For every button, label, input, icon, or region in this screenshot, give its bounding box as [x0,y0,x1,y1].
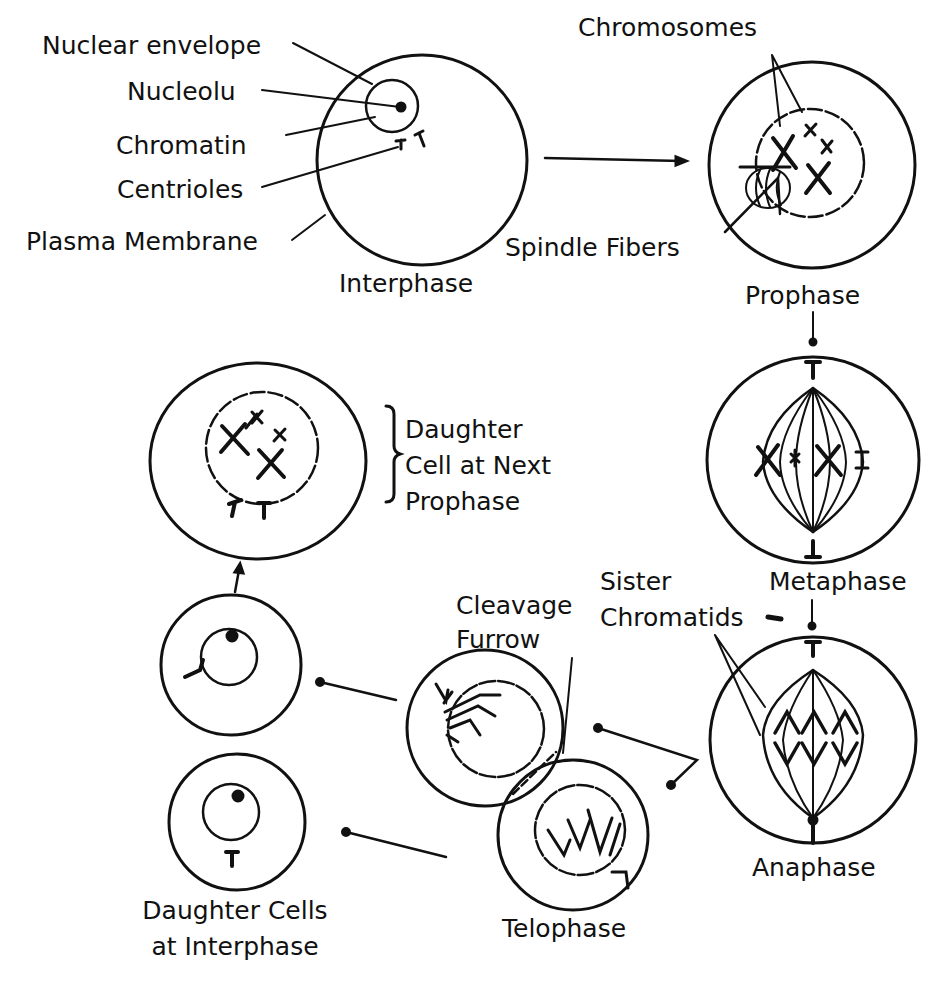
daughter-prophase-cell [150,363,366,559]
interphase-cell [262,43,527,265]
stray-mark [768,617,781,619]
label-sister-chromatids-line1: Sister [600,566,671,597]
label-sister-chromatids-line2: Chromatids [600,602,744,633]
arrow-metaphase-to-anaphase [809,600,815,629]
label-chromosomes: Chromosomes [578,12,757,43]
label-daughter-interphase-line1: Daughter Cells [110,895,360,926]
label-nucleolus: Nucleolu [127,76,236,107]
cleavage-furrow-leader [563,658,572,753]
label-metaphase: Metaphase [769,566,907,597]
label-centrioles: Centrioles [117,174,243,205]
label-telophase: Telophase [502,913,626,944]
label-daughter-next-line2: Cell at Next [405,450,551,481]
label-cleavage-furrow-line1: Cleavage [456,590,572,621]
arrow-interphase-to-prophase [545,157,686,165]
daughter-interphase-cell-top [161,595,301,735]
label-plasma-membrane: Plasma Membrane [26,226,258,257]
bracket-brace [386,406,400,502]
label-daughter-next-line3: Prophase [405,486,520,517]
arrow-telophase-to-daughters [317,679,447,858]
daughter-interphase-cell-bottom [169,754,305,890]
label-nuclear-envelope: Nuclear envelope [42,30,261,61]
label-prophase: Prophase [745,280,860,311]
arrow-anaphase-to-telophase [595,725,698,789]
arrow-to-next-prophase [235,564,243,592]
metaphase-cell [707,357,919,563]
prophase-cell [709,55,915,268]
telophase-cell-top [407,650,563,806]
label-cleavage-furrow-line2: Furrow [456,624,540,655]
arrow-prophase-to-metaphase [810,312,816,345]
label-interphase: Interphase [339,268,473,299]
label-anaphase: Anaphase [752,852,876,883]
label-daughter-next-line1: Daughter [405,414,523,445]
label-daughter-interphase-line2: at Interphase [110,931,360,962]
label-spindle-fibers: Spindle Fibers [505,232,680,263]
telophase-cell-bottom [498,760,648,910]
anaphase-cell [710,635,916,843]
label-chromatin: Chromatin [116,130,247,161]
